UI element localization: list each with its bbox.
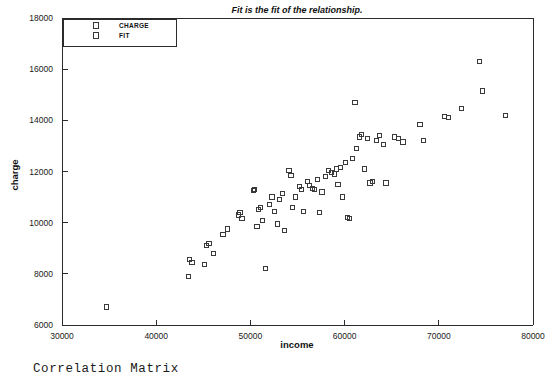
y-axis-title: charge (9, 159, 20, 190)
data-point (294, 195, 298, 199)
x-tick-label: 30000 (50, 331, 74, 341)
data-point (263, 267, 267, 271)
axes-frame (62, 18, 533, 325)
data-point (289, 173, 293, 177)
data-point (377, 134, 381, 138)
x-axis-ticks: 300004000050000600007000080000 (50, 320, 545, 341)
data-point (336, 182, 340, 186)
chart-title-group: Fit is the fit of the relationship. (231, 5, 362, 15)
x-tick-label: 80000 (521, 331, 545, 341)
data-point (353, 100, 357, 104)
x-tick-label: 60000 (333, 331, 357, 341)
y-tick-label: 18000 (29, 13, 53, 23)
data-point (334, 167, 338, 171)
data-point (365, 136, 369, 140)
data-point (371, 180, 375, 184)
data-point (362, 167, 366, 171)
data-point (480, 89, 484, 93)
scatter-plot-figure: Fit is the fit of the relationship. 3000… (0, 0, 557, 348)
x-tick-label: 50000 (239, 331, 263, 341)
legend-entries: CHARGEFIT (93, 22, 149, 39)
data-point (267, 203, 271, 207)
data-point (504, 113, 508, 117)
x-tick-label: 40000 (144, 331, 168, 341)
data-point (221, 232, 225, 236)
data-point (355, 146, 359, 150)
data-point (341, 195, 345, 199)
data-point (255, 224, 259, 228)
x-axis-title: income (280, 339, 313, 348)
data-point (291, 205, 295, 209)
data-point (339, 166, 343, 170)
y-tick-label: 10000 (29, 218, 53, 228)
data-point (317, 210, 321, 214)
data-point (381, 143, 385, 147)
data-point (280, 191, 284, 195)
data-point (375, 139, 379, 143)
data-point (418, 122, 422, 126)
x-tick-label: 70000 (427, 331, 451, 341)
data-point (459, 107, 463, 111)
data-point (287, 168, 291, 172)
data-point (324, 175, 328, 179)
data-point (343, 160, 347, 164)
data-point (276, 222, 280, 226)
y-tick-label: 14000 (29, 115, 53, 125)
data-point (401, 140, 405, 144)
data-point (477, 59, 481, 63)
data-point (315, 177, 319, 181)
chart-canvas: Fit is the fit of the relationship. 3000… (0, 0, 557, 348)
data-point (212, 251, 216, 255)
data-point (301, 209, 305, 213)
legend-marker (93, 33, 99, 39)
y-tick-label: 6000 (34, 320, 53, 330)
chart-legend: CHARGEFIT (63, 19, 176, 46)
y-tick-label: 8000 (34, 269, 53, 279)
data-point-markers (104, 59, 508, 309)
footer-text: Correlation Matrix (33, 362, 179, 376)
legend-label: FIT (119, 32, 130, 39)
data-point (332, 172, 336, 176)
data-point (320, 190, 324, 194)
data-point (202, 263, 206, 267)
legend-label: CHARGE (119, 22, 149, 29)
data-point (384, 181, 388, 185)
data-point (226, 227, 230, 231)
data-point (186, 274, 190, 278)
data-point (261, 218, 265, 222)
data-point (104, 305, 108, 309)
y-tick-label: 12000 (29, 167, 53, 177)
data-point (270, 195, 274, 199)
legend-marker (93, 23, 99, 29)
data-point (368, 181, 372, 185)
data-point (273, 209, 277, 213)
data-point (350, 157, 354, 161)
y-tick-label: 16000 (29, 64, 53, 74)
data-point (282, 228, 286, 232)
data-point (278, 198, 282, 202)
chart-title: Fit is the fit of the relationship. (231, 5, 362, 15)
data-point (422, 139, 426, 143)
